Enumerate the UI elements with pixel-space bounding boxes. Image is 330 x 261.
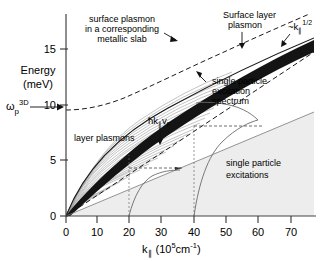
svg-text:spectrum: spectrum [212,96,249,106]
y-axis-title-line2: (meV) [23,78,53,90]
x-tick-label-40: 40 [188,226,200,238]
annotation-layer-plasmons: layer plasmons [74,133,135,143]
x-tick-label-60: 60 [252,226,264,238]
y-tick-label-0: 0 [50,210,56,222]
svg-text:excitations: excitations [226,170,269,180]
svg-text:single particle: single particle [212,76,267,86]
svg-text:metallic slab: metallic slab [97,34,147,44]
y-tick-label-15: 15 [44,43,56,55]
svg-text:excitation: excitation [212,86,250,96]
plasmon-dispersion-chart: 0 5 10 15 0 10 20 30 40 50 60 70 k∥(105c… [0,0,330,261]
y-axis-title-line1: Energy [21,64,56,76]
svg-text:plasmon: plasmon [228,20,262,30]
x-tick-label-50: 50 [220,226,232,238]
svg-text:single particle: single particle [226,158,281,168]
svg-text:Surface layer: Surface layer [223,10,276,20]
figure-container: 0 5 10 15 0 10 20 30 40 50 60 70 k∥(105c… [0,0,330,261]
svg-text:in a corresponding: in a corresponding [85,24,159,34]
x-tick-label-0: 0 [63,226,69,238]
x-tick-label-10: 10 [91,226,103,238]
svg-text:surface plasmon: surface plasmon [89,14,155,24]
x-tick-label-30: 30 [155,226,167,238]
y-tick-label-5: 5 [50,154,56,166]
x-tick-label-70: 70 [285,226,297,238]
y-tick-label-10: 10 [44,99,56,111]
x-tick-label-20: 20 [123,226,135,238]
